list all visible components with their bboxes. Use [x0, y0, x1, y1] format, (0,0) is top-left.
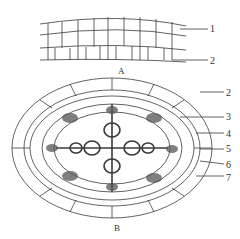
- label-b-3: 3: [226, 112, 231, 122]
- label-b-4: 4: [226, 129, 231, 139]
- diagram-canvas: [0, 0, 240, 239]
- panel-a-epidermis-cells: [40, 17, 208, 62]
- panel-b-caption: B: [114, 223, 120, 233]
- label-b-7: 7: [226, 173, 231, 183]
- panel-b-root-section: [12, 78, 224, 218]
- leader-lines-b: [180, 92, 224, 176]
- label-a-2: 2: [210, 56, 215, 66]
- label-b-2: 2: [226, 88, 231, 98]
- label-b-6: 6: [226, 160, 231, 170]
- label-a-1: 1: [210, 24, 215, 34]
- panel-a-caption: A: [118, 66, 125, 76]
- label-b-5: 5: [226, 144, 231, 154]
